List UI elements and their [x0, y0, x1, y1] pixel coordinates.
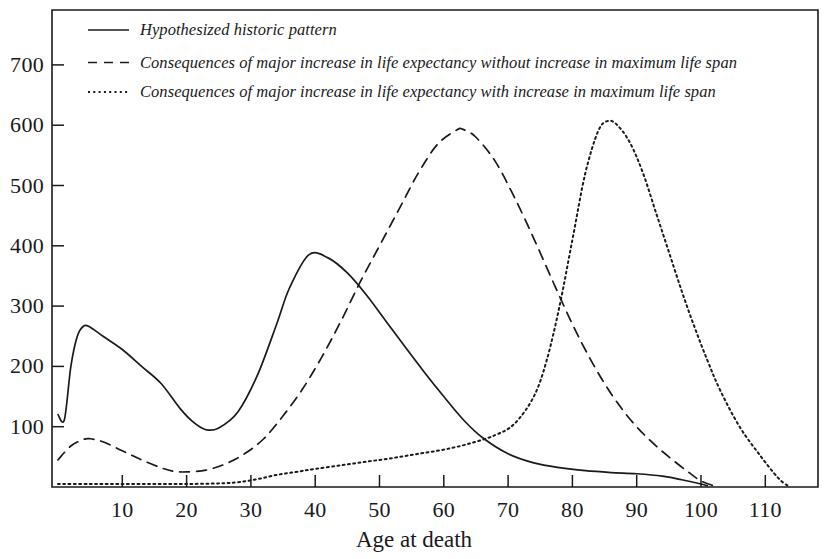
x-tick-label-80: 80: [561, 497, 584, 523]
y-axis-ticks: [52, 65, 64, 427]
y-tick-label-300: 300: [0, 293, 44, 319]
y-tick-label-500: 500: [0, 173, 44, 199]
legend-label-0: Hypothesized historic pattern: [140, 20, 337, 40]
x-tick-label-40: 40: [304, 497, 327, 523]
x-tick-label-10: 10: [111, 497, 134, 523]
y-tick-label-400: 400: [0, 233, 44, 259]
data-curves: [58, 121, 788, 486]
x-tick-label-110: 110: [749, 497, 782, 523]
x-tick-label-100: 100: [684, 497, 718, 523]
x-axis-title: Age at death: [0, 527, 828, 553]
x-tick-label-30: 30: [240, 497, 263, 523]
curve-series-0: [58, 253, 707, 486]
x-tick-label-60: 60: [432, 497, 455, 523]
curve-series-1: [58, 128, 714, 485]
x-tick-label-50: 50: [368, 497, 391, 523]
y-tick-label-700: 700: [0, 52, 44, 78]
legend-label-2: Consequences of major increase in life e…: [140, 82, 716, 102]
y-tick-label-200: 200: [0, 353, 44, 379]
x-tick-label-20: 20: [175, 497, 198, 523]
y-tick-label-100: 100: [0, 414, 44, 440]
curve-series-2: [58, 121, 788, 486]
x-tick-label-70: 70: [497, 497, 520, 523]
y-tick-label-600: 600: [0, 112, 44, 138]
legend-line-samples: [88, 30, 129, 92]
x-tick-label-90: 90: [625, 497, 648, 523]
legend-label-1: Consequences of major increase in life e…: [140, 53, 737, 73]
figure-chart: 100200300400500600700 102030405060708090…: [0, 0, 828, 559]
